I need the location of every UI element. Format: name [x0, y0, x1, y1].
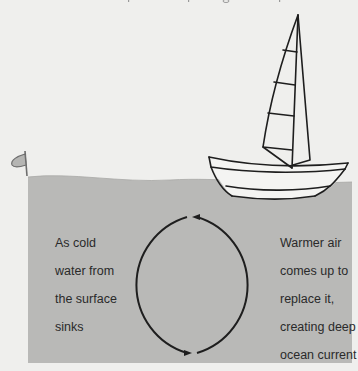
label-right-line-4: creating deep: [280, 320, 358, 334]
buoy-marker-icon: [12, 151, 27, 176]
label-right-line-5: ocean current: [280, 348, 358, 362]
label-right-line-2: comes up to: [280, 264, 358, 278]
label-cold-water-sinks: As cold water from the surface sinks: [55, 222, 135, 348]
cut-off-title-fragments: [128, 0, 280, 3]
label-left-line-4: sinks: [55, 320, 135, 334]
label-warmer-air-rises: Warmer air comes up to replace it, creat…: [280, 222, 358, 371]
label-right-line-3: replace it,: [280, 292, 358, 306]
sailboat-icon: [209, 15, 348, 199]
label-left-line-3: the surface: [55, 292, 135, 306]
label-left-line-1: As cold: [55, 236, 135, 250]
label-right-line-1: Warmer air: [280, 236, 358, 250]
label-left-line-2: water from: [55, 264, 135, 278]
